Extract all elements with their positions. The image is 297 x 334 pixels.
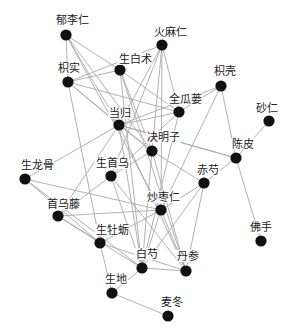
node-chenpi[interactable] (230, 152, 241, 163)
node-shenglonggu[interactable] (19, 173, 30, 184)
node-juemingzi[interactable] (146, 145, 157, 156)
node-label-chishao: 赤芍 (197, 164, 219, 177)
node-label-danshen: 丹参 (177, 249, 199, 263)
node-danshen[interactable] (180, 265, 191, 276)
node-label-chenpi: 陈皮 (232, 137, 254, 151)
node-huomaren[interactable] (156, 39, 167, 50)
node-zhike[interactable] (215, 80, 226, 91)
node-label-danggui: 当归 (109, 106, 131, 120)
node-label-foshou: 佛手 (250, 220, 272, 234)
node-yuliren[interactable] (60, 29, 71, 40)
node-baishao[interactable] (136, 262, 147, 273)
node-label-quangualou: 全瓜蒌 (169, 92, 202, 106)
node-shengmuli[interactable] (94, 237, 105, 248)
herb-network-diagram: 郁李仁枳实火麻仁生白术枳壳全瓜蒌砂仁当归决明子陈皮生龙骨生首乌赤芍首乌藤炒枣仁生… (0, 0, 297, 334)
edge-danggui-baishao (119, 125, 142, 268)
node-zhishi[interactable] (62, 76, 73, 87)
node-label-shengdi: 生地 (105, 272, 127, 286)
node-label-yuliren: 郁李仁 (56, 13, 89, 27)
node-label-shenglonggu: 生龙骨 (21, 158, 54, 172)
node-label-baishao: 白芍 (136, 247, 158, 261)
node-label-huomaren: 火麻仁 (154, 25, 187, 39)
node-label-shengbaizhu: 生白术 (119, 52, 152, 66)
node-label-shengmuli: 生牡蛎 (96, 223, 129, 237)
node-label-zhike: 枳壳 (214, 64, 236, 78)
node-label-maidong: 麦冬 (161, 295, 183, 309)
node-label-juemingzi: 决明子 (147, 131, 180, 144)
node-shengdi[interactable] (106, 287, 117, 298)
node-maidong[interactable] (162, 310, 173, 321)
node-foshou[interactable] (255, 235, 266, 246)
node-danggui[interactable] (113, 119, 124, 130)
node-chishao[interactable] (198, 177, 209, 188)
node-shengshouwu[interactable] (105, 170, 116, 181)
node-label-shouwuteng: 首乌藤 (47, 197, 80, 211)
node-shengbaizhu[interactable] (114, 64, 125, 75)
node-sharen[interactable] (263, 115, 274, 126)
node-label-shengshouwu: 生首乌 (96, 156, 129, 170)
node-chaozaoren[interactable] (155, 204, 166, 215)
edge-shengdi-maidong (112, 293, 168, 316)
node-label-sharen: 砂仁 (256, 102, 278, 115)
node-label-chaozaoren: 炒枣仁 (147, 191, 180, 204)
node-label-zhishi: 枳实 (58, 61, 80, 75)
node-quangualou[interactable] (173, 106, 184, 117)
node-shouwuteng[interactable] (52, 210, 63, 221)
